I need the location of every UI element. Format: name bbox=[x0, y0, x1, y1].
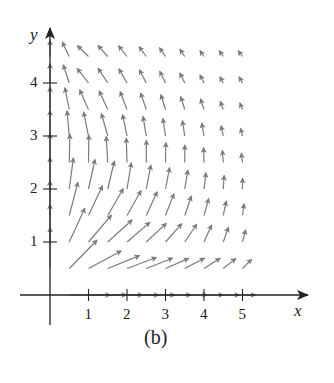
y-axis-label: y bbox=[30, 26, 38, 43]
y-tick-label: 4 bbox=[30, 75, 38, 90]
axes bbox=[20, 28, 308, 325]
vector-arrows bbox=[50, 40, 256, 295]
y-tick-label: 2 bbox=[30, 181, 38, 196]
y-tick-label: 3 bbox=[30, 128, 38, 143]
figure-caption: (b) bbox=[144, 327, 167, 347]
x-tick-label: 3 bbox=[162, 307, 170, 322]
x-tick-label: 1 bbox=[85, 307, 93, 322]
y-tick-label: 1 bbox=[30, 234, 38, 249]
x-axis-label: x bbox=[294, 302, 302, 319]
x-tick-label: 4 bbox=[200, 307, 208, 322]
x-tick-label: 5 bbox=[239, 307, 247, 322]
x-tick-label: 2 bbox=[123, 307, 131, 322]
vector-field-plot bbox=[0, 0, 334, 383]
